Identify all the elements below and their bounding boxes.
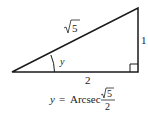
formula-equals: = [59, 93, 65, 105]
formula-function: Arcsec [70, 93, 101, 105]
formula-lhs: y [49, 93, 55, 105]
right-angle-marker [130, 64, 138, 72]
opposite-label: 1 [141, 34, 147, 46]
formula: y = Arcsec 5 2 [49, 88, 115, 112]
adjacent-label: 2 [85, 74, 91, 86]
angle-arc [51, 55, 55, 72]
triangle-diagram: 5 1 2 y y = Arcsec 5 2 [0, 0, 148, 113]
formula-numerator: 5 [107, 88, 112, 99]
svg-text:5: 5 [72, 22, 78, 34]
right-triangle [12, 8, 138, 72]
formula-denominator: 2 [105, 101, 110, 112]
angle-label: y [59, 56, 65, 67]
hypotenuse-label: 5 [64, 20, 80, 34]
